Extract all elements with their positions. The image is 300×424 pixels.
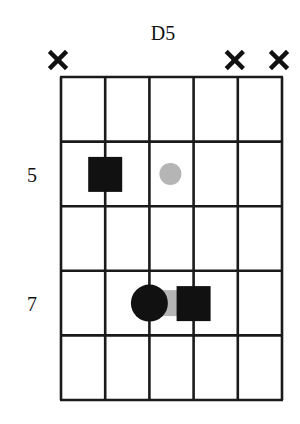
fret-number-label: 7 <box>27 293 37 315</box>
optional-dot-marker <box>159 163 181 185</box>
chord-title: D5 <box>151 22 175 44</box>
fret-labels: 57 <box>27 164 37 315</box>
mute-x-icon <box>228 53 242 67</box>
chord-diagram: D5 57 <box>0 0 300 424</box>
fretboard-grid <box>60 77 283 400</box>
finger-circle-marker <box>131 285 168 322</box>
mute-x-icon <box>272 53 286 67</box>
fret-number-label: 5 <box>27 164 37 186</box>
root-square-marker <box>88 157 122 192</box>
mute-x-icon <box>51 53 65 67</box>
root-square-marker <box>177 286 211 321</box>
string-status-row <box>51 53 286 67</box>
